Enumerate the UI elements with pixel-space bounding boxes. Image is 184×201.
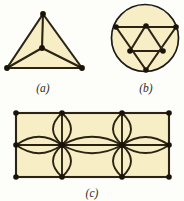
vertex-c-top-mid-right	[119, 110, 125, 116]
edge-a-center-apex	[42, 14, 43, 48]
vertex-b-top-left	[113, 24, 119, 30]
vertex-c-right-mid	[166, 142, 172, 148]
caption-c: (c)	[86, 187, 99, 200]
vertex-a-apex	[40, 11, 46, 17]
vertex-c-top-right	[166, 110, 172, 116]
vertex-c-interior-right	[119, 142, 125, 148]
vertex-c-bottom-left	[13, 174, 19, 180]
panel-a-figure	[4, 11, 85, 71]
vertex-c-bottom-right	[166, 174, 172, 180]
vertex-c-top-mid-left	[59, 110, 65, 116]
vertex-c-bottom-mid-left	[59, 174, 65, 180]
caption-a: (a)	[36, 82, 50, 95]
vertex-b-top-mid	[143, 23, 149, 29]
panel-c-figure	[13, 110, 172, 180]
figure-svg: (a) (b)	[0, 0, 184, 201]
caption-b: (b)	[139, 82, 153, 95]
figure-panel: (a) (b)	[0, 0, 184, 201]
vertex-c-left-mid	[13, 142, 19, 148]
vertex-b-bottom	[143, 67, 149, 73]
vertex-c-interior-left	[59, 142, 65, 148]
panel-b-figure	[112, 5, 179, 73]
vertex-a-bottom-right	[79, 65, 85, 71]
vertex-a-center	[39, 45, 45, 51]
vertex-b-mid-left	[127, 48, 133, 54]
vertex-c-bottom-mid-right	[119, 174, 125, 180]
vertex-a-bottom-left	[4, 65, 10, 71]
triangle-face-a	[7, 14, 82, 68]
vertex-b-mid-right	[160, 48, 166, 54]
vertex-c-top-left	[13, 110, 19, 116]
vertex-b-top-right	[173, 24, 179, 30]
